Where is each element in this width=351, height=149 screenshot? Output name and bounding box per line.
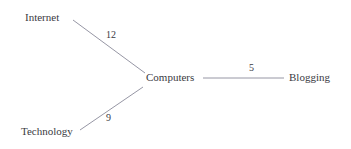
edge-internet-computers xyxy=(73,20,145,73)
node-label-blogging: Blogging xyxy=(289,71,330,84)
edge-weight-internet-computers: 12 xyxy=(106,29,116,41)
graph-diagram: Internet Technology Computers Blogging 1… xyxy=(0,0,351,149)
edge-weight-computers-blogging: 5 xyxy=(249,62,254,74)
node-label-technology: Technology xyxy=(21,125,73,138)
edge-weight-technology-computers: 9 xyxy=(106,112,111,124)
node-label-computers: Computers xyxy=(146,71,194,84)
edge-technology-computers xyxy=(80,87,143,130)
node-label-internet: Internet xyxy=(25,11,59,24)
